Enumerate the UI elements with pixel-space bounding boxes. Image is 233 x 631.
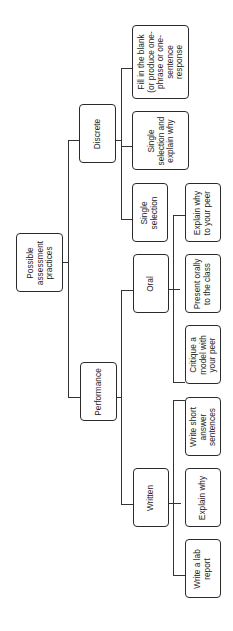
discrete-node: Discrete [79,104,116,163]
explain-why-label: Explain why [198,475,208,519]
explain-peer-label: Explain why to your peer [193,190,212,234]
discrete-in [68,140,79,141]
fill-in [121,68,132,69]
discrete-spine [121,68,122,220]
performance-node: Performance [80,362,117,421]
explain-peer-node: Explain why to your peer [185,183,221,242]
level1-spine [68,140,69,398]
present-orally-node: Present orally to the class [185,254,221,313]
explain-peer-in [173,215,185,216]
root-label: Possible assessment practices [25,240,54,284]
write-short-in [173,400,185,401]
written-spine [173,400,174,576]
present-orally-label: Present orally to the class [193,258,212,309]
discrete-label: Discrete [93,118,103,148]
oral-node: Oral [133,254,169,313]
written-in [121,504,133,505]
single-explain-in [121,146,132,147]
critique-in [173,382,185,383]
single-explain-label: Single selection and explain why [146,116,175,165]
fill-blank-node: Fill in the blank (or produce one- phras… [132,25,189,99]
single-explain-node: Single selection and explain why [132,111,189,170]
fill-blank-label: Fill in the blank (or produce one- phras… [137,31,185,92]
lab-report-in [173,575,185,576]
write-short-node: Write short answer sentences [185,397,221,456]
performance-spine [121,290,122,505]
performance-label: Performance [94,368,104,416]
performance-in [68,397,80,398]
lab-report-node: Write a lab report [185,539,221,598]
lab-report-label: Write a lab report [193,549,212,589]
oral-in [121,290,133,291]
single-selection-label: Single selection [140,196,159,229]
critique-label: Critique a model with your peer [189,335,218,375]
single-sel-in [121,219,132,220]
write-short-label: Write short answer sentences [189,407,218,447]
written-label: Written [146,484,156,510]
single-selection-node: Single selection [132,183,168,242]
explain-why-node: Explain why [185,468,221,527]
critique-node: Critique a model with your peer [185,325,221,384]
written-node: Written [133,468,169,527]
oral-label: Oral [146,276,156,292]
oral-spine [173,215,174,383]
root-node: Possible assessment practices [16,233,63,292]
